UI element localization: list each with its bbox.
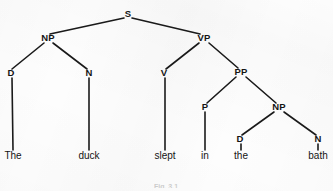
tree-edge-vp-pp	[209, 43, 238, 68]
tree-node-pp: PP	[234, 66, 247, 77]
tree-branch-lines	[0, 0, 333, 191]
tree-edge-np1-n1	[53, 43, 87, 69]
tree-leaf-the2: the	[234, 150, 248, 161]
figure-caption: Fig. 3.1	[154, 183, 178, 188]
tree-node-vp: VP	[197, 32, 210, 43]
tree-edge-np2-d2	[242, 112, 274, 135]
tree-node-np1: NP	[41, 32, 55, 43]
tree-leaf-in: in	[201, 150, 209, 161]
tree-node-n2: N	[314, 133, 321, 144]
tree-node-p: P	[202, 101, 209, 112]
tree-leaf-slept: slept	[154, 150, 175, 161]
tree-leaf-the1: The	[4, 150, 21, 161]
tree-edge-s-vp	[132, 18, 200, 34]
tree-edge-pp-np2	[246, 77, 276, 103]
tree-node-v: V	[161, 67, 168, 78]
edge-group	[12, 18, 318, 150]
tree-edge-d1-the1	[12, 78, 13, 150]
tree-leaf-bath: bath	[308, 150, 327, 161]
tree-node-s: S	[125, 8, 132, 19]
syntax-tree-figure: SNPVPDNVPPPNPDN Theducksleptinthebath Fi…	[0, 0, 333, 191]
tree-edge-vp-v	[166, 43, 199, 69]
tree-edge-np1-d1	[12, 43, 44, 69]
tree-edge-pp-p	[207, 77, 236, 103]
tree-leaf-duck: duck	[78, 150, 99, 161]
tree-node-n1: N	[85, 67, 92, 78]
tree-edge-s-np1	[50, 18, 124, 34]
tree-node-np2: NP	[272, 101, 286, 112]
tree-edge-np2-n2	[284, 112, 316, 135]
tree-node-d2: D	[236, 133, 243, 144]
tree-node-d1: D	[7, 67, 14, 78]
